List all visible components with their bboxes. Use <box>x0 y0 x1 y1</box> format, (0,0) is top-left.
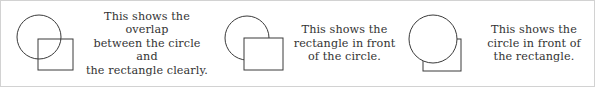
panel-caption-circle-front: This shows the circle in front of the re… <box>480 23 588 64</box>
figure-frame: This shows the overlap between the circl… <box>0 0 595 87</box>
panel-circle-front: This shows the circle in front of the re… <box>406 1 588 86</box>
diagram-rectangle-front <box>219 8 289 80</box>
panel-overlap: This shows the overlap between the circl… <box>9 1 209 86</box>
panel-caption-overlap: This shows the overlap between the circl… <box>85 10 209 78</box>
diagram-overlap <box>9 8 81 80</box>
circle-shape <box>409 15 457 63</box>
circle-shape <box>17 15 61 59</box>
rectangle-shape <box>244 38 283 70</box>
diagram-circle-front <box>406 8 476 80</box>
rectangle-shape <box>38 39 73 70</box>
panel-rectangle-front: This shows the rectangle in front of the… <box>219 1 397 86</box>
panel-caption-rectangle-front: This shows the rectangle in front of the… <box>293 23 397 64</box>
